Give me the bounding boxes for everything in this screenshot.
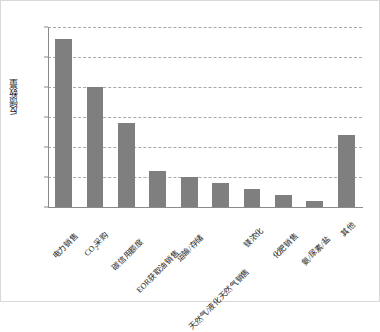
bar: [118, 123, 135, 207]
bar-slot: [206, 27, 235, 207]
x-tick-label: 化肥销售: [270, 232, 299, 261]
x-tick-label: 其他: [340, 220, 358, 238]
x-tick-label: EOR获取油销售: [135, 249, 181, 295]
bar: [181, 177, 198, 207]
bar: [338, 135, 355, 207]
bar: [87, 87, 104, 207]
x-tick-label: CO2采购: [83, 230, 113, 260]
bar-slot: [81, 27, 110, 207]
x-tick-label: 天然气/液化天然气销售: [187, 267, 252, 332]
bar: [244, 189, 261, 207]
x-tick-label: 碳信用额度: [110, 237, 145, 272]
bar: [55, 39, 72, 207]
y-axis-title: 反馈数量: [7, 79, 21, 115]
bar-slot: [332, 27, 361, 207]
bar-slot: [112, 27, 141, 207]
x-tick-label: 运输/存储: [175, 233, 206, 264]
bar: [275, 195, 292, 207]
x-tick-label: 氨/尿素/盐: [300, 235, 332, 267]
x-tick-label: 镁浓化: [242, 226, 265, 249]
x-tick-label: 电力销售: [50, 232, 79, 261]
bar-slot: [300, 27, 329, 207]
x-axis-tick-labels: 电力销售CO2采购碳信用额度EOR获取油销售运输/存储天然气/液化天然气销售镁浓…: [48, 207, 362, 297]
subscript-2: 2: [94, 245, 100, 251]
bar-slot: [143, 27, 172, 207]
bar-series: [48, 27, 362, 207]
bar-slot: [238, 27, 267, 207]
plot-area: [48, 27, 362, 207]
bar-slot: [175, 27, 204, 207]
bar: [149, 171, 166, 207]
bar-slot: [269, 27, 298, 207]
bar-slot: [49, 27, 78, 207]
bar: [212, 183, 229, 207]
